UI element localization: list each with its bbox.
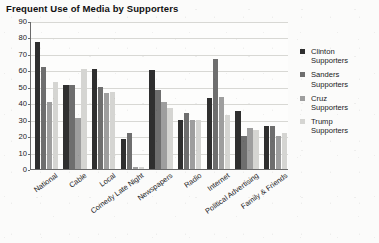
legend-swatch-icon [300,49,305,54]
bar [184,113,189,169]
bar [121,139,126,169]
y-axis-tick-label: 70 [3,51,27,59]
bar [35,42,40,169]
y-axis-tick-label: 30 [3,117,27,125]
bar-group [121,22,144,169]
bar [69,85,74,169]
legend-series-subtitle: Supporters [311,80,376,89]
bar [47,102,52,169]
bar-group [63,22,86,169]
bar [127,133,132,169]
bar [219,97,224,169]
plot-area [30,22,288,170]
legend-series-subtitle: Supporters [311,103,376,112]
bar [241,136,246,169]
legend-series-name: Cruz [311,94,376,103]
x-axis-tick-label: National [32,171,59,194]
x-axis-line [30,169,288,170]
bar [213,59,218,169]
bar [178,120,183,169]
bar [207,98,212,169]
x-axis-tick-label: Local [97,171,117,189]
bar [253,130,258,169]
y-axis-tick-label: 90 [3,18,27,26]
bar [41,67,46,169]
y-axis-tick-label: 60 [3,67,27,75]
bar-group [207,22,230,169]
bar [276,136,281,169]
legend-item[interactable]: SandersSupporters [300,70,376,89]
chart-legend: ClintonSupportersSandersSupportersCruzSu… [300,47,376,140]
x-axis-tick-label: Radio [182,171,203,190]
bar-group [35,22,58,169]
bar [81,69,86,169]
bar [149,70,154,169]
bar [264,126,269,169]
bar [190,120,195,169]
bar [196,120,201,169]
chart-container: Frequent Use of Media by Supporters 9080… [0,0,379,243]
y-axis-tick-label: 20 [3,133,27,141]
bar [282,133,287,169]
bar [98,87,103,169]
y-axis-tick-label: 0 [3,166,27,174]
y-axis-tick-label: 80 [3,34,27,42]
y-axis-line [30,22,31,170]
legend-swatch-icon [300,96,305,101]
bar [104,93,109,169]
legend-series-subtitle: Supporters [311,126,376,135]
y-axis-tick-label: 10 [3,150,27,158]
bar-group [178,22,201,169]
bar [92,69,97,169]
bar [63,85,68,169]
bar-group [264,22,287,169]
legend-swatch-icon [300,72,305,77]
x-axis-labels: NationalCableLocalComedy Late NightNewsp… [30,171,330,241]
bar [235,111,240,169]
bar [167,108,172,169]
legend-series-name: Trump [311,117,376,126]
bar-group [235,22,258,169]
y-axis-tick-label: 40 [3,100,27,108]
bar [225,115,230,169]
bar [161,102,166,169]
y-axis-tick-label: 50 [3,84,27,92]
legend-item[interactable]: TrumpSupporters [300,117,376,136]
legend-item[interactable]: CruzSupporters [300,94,376,113]
chart-title: Frequent Use of Media by Supporters [6,3,178,14]
legend-series-subtitle: Supporters [311,56,376,65]
bar [53,82,58,169]
legend-series-name: Clinton [311,47,376,56]
legend-series-name: Sanders [311,70,376,79]
bar [155,90,160,169]
bar-group [92,22,115,169]
bar [75,118,80,169]
legend-swatch-icon [300,119,305,124]
x-axis-tick-label: Cable [67,171,88,190]
bar-group [149,22,172,169]
bar [110,92,115,169]
bar [270,126,275,169]
legend-item[interactable]: ClintonSupporters [300,47,376,66]
bar [247,128,252,169]
y-axis: 9080706050403020100 [0,22,27,170]
